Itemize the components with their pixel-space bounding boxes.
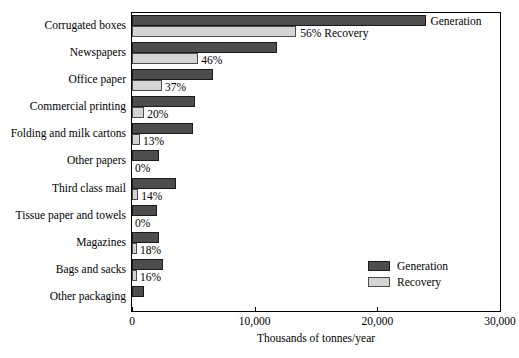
bar-generation [132,15,426,26]
bar-recovery [132,243,137,254]
bar-generation [132,232,159,243]
category-label: Other packaging [50,290,126,302]
bar-generation [132,69,213,80]
recovery-percent-label: 0% [135,162,150,174]
x-axis-tick [500,307,501,312]
bar-group: Magazines18% [132,232,500,259]
x-axis-tick-label: 0 [129,315,135,327]
category-label: Corrugated boxes [45,19,126,31]
bar-recovery [132,53,198,64]
category-label: Newspapers [70,46,126,58]
bar-generation [132,150,159,161]
x-axis-tick [132,307,133,312]
bar-group: Tissue paper and towels0% [132,205,500,232]
bar-group: Corrugated boxes56% RecoveryGeneration [132,15,500,42]
x-axis-tick [377,307,378,312]
bar-recovery [132,270,137,281]
x-axis-tick-label: 10,000 [239,315,271,327]
bar-recovery [132,80,162,91]
bar-group: Folding and milk cartons13% [132,123,500,150]
bar-recovery [132,189,138,200]
bar-generation [132,178,176,189]
legend-item-recovery: Recovery [368,274,448,290]
x-axis-tick-label: 20,000 [362,315,394,327]
recovery-percent-label: 13% [143,135,164,147]
recovery-percent-label: 37% [165,81,186,93]
x-axis-title: Thousands of tonnes/year [131,332,501,345]
bar-recovery [132,26,296,37]
legend-swatch-generation [368,261,390,271]
category-label: Bags and sacks [56,263,126,275]
category-label: Office paper [68,73,126,85]
legend-label-generation: Generation [397,259,448,273]
bar-generation [132,96,195,107]
recovery-percent-label: 16% [140,271,161,283]
category-label: Other papers [67,154,126,166]
x-axis-tick-label: 30,000 [484,315,516,327]
recovery-percent-label: 0% [135,217,150,229]
legend-item-generation: Generation [368,258,448,274]
bar-group: Other papers0% [132,150,500,177]
legend-swatch-recovery [368,277,390,287]
recovery-percent-label: 18% [140,244,161,256]
bar-group: Third class mail14% [132,178,500,205]
bar-generation [132,205,157,216]
bar-recovery [132,107,144,118]
bar-generation [132,259,163,270]
category-label: Commercial printing [30,100,126,112]
recovery-percent-label: 56% Recovery [300,27,368,39]
bar-group: Office paper37% [132,69,500,96]
category-label: Folding and milk cartons [11,127,126,139]
recovery-percent-label: 46% [201,54,222,66]
chart-legend: Generation Recovery [368,258,448,290]
bar-generation [132,286,144,297]
paper-recovery-bar-chart: Corrugated boxes56% RecoveryGenerationNe… [0,0,519,358]
bar-recovery [132,134,140,145]
category-label: Third class mail [52,182,126,194]
category-label: Magazines [76,236,126,248]
generation-inline-label: Generation [430,15,481,27]
bar-group: Commercial printing20% [132,96,500,123]
x-axis-tick [255,307,256,312]
bar-generation [132,123,193,134]
bar-generation [132,42,277,53]
recovery-percent-label: 14% [141,190,162,202]
legend-label-recovery: Recovery [397,275,441,289]
category-label: Tissue paper and towels [16,209,126,221]
bar-group: Newspapers46% [132,42,500,69]
recovery-percent-label: 20% [147,108,168,120]
